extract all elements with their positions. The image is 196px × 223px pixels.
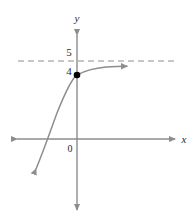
origin-label: 0 bbox=[68, 143, 73, 154]
y-axis-label: y bbox=[74, 12, 80, 24]
y-intercept-point bbox=[74, 72, 81, 79]
plot-background bbox=[0, 0, 196, 223]
coordinate-plane-svg: y x 5 4 0 bbox=[0, 0, 196, 223]
y-tick-label-4: 4 bbox=[66, 65, 72, 77]
x-axis-label: x bbox=[181, 133, 187, 145]
graph-figure: y x 5 4 0 bbox=[0, 0, 196, 223]
y-tick-label-5: 5 bbox=[66, 46, 72, 58]
